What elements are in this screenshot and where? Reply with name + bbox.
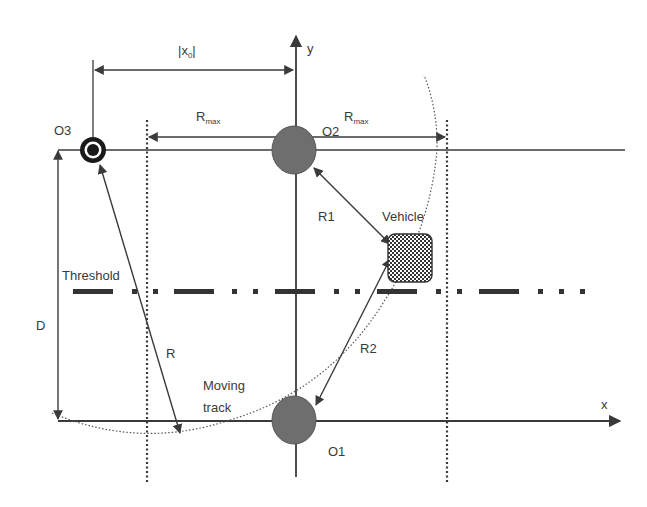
rmax-right-label: Rmax <box>344 109 369 126</box>
node-o3 <box>80 137 106 163</box>
vehicle-box <box>388 234 432 282</box>
threshold-label: Threshold <box>62 268 120 283</box>
node-o2 <box>272 126 316 174</box>
r2-arrow <box>316 259 390 405</box>
r2-label: R2 <box>360 341 377 356</box>
d-label: D <box>36 318 45 333</box>
r-label: R <box>166 346 175 361</box>
rmax-left-label: Rmax <box>196 109 221 126</box>
o3-label: O3 <box>54 123 71 138</box>
moving-track-label: Moving <box>203 378 245 393</box>
o1-label: O1 <box>328 444 345 459</box>
threshold-line <box>73 289 585 294</box>
geometry-diagram: |x0| y x Rmax Rmax O3 O2 O1 R1 R2 R D Ve… <box>0 0 647 507</box>
r-arrow <box>100 165 180 433</box>
o2-label: O2 <box>322 124 339 139</box>
r1-label: R1 <box>318 209 335 224</box>
moving-track-label-2: track <box>203 400 232 415</box>
x-axis-label: x <box>601 397 608 412</box>
y-axis-label: y <box>307 41 314 56</box>
node-o1 <box>272 396 316 444</box>
x0-label: |x0| <box>178 43 196 60</box>
vehicle-label: Vehicle <box>382 209 424 224</box>
r1-arrow <box>314 168 390 244</box>
